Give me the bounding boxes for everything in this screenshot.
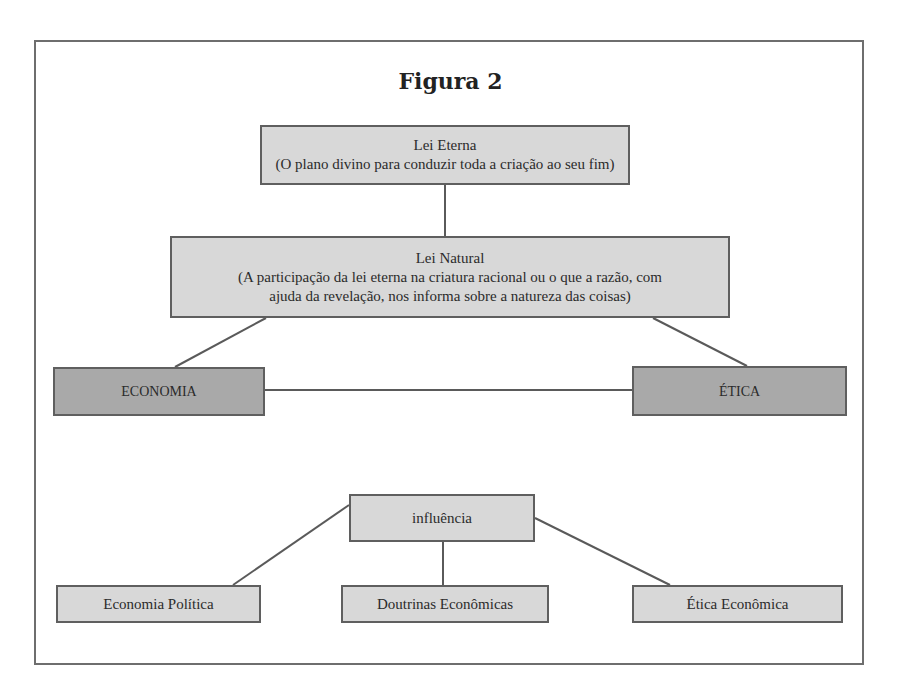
node-lei-natural: Lei Natural (A participação da lei etern… <box>170 236 730 318</box>
node-influencia: influência <box>349 494 535 542</box>
node-lei-natural-description-2: ajuda da revelação, nos informa sobre a … <box>269 287 631 306</box>
node-economia-politica: Economia Política <box>56 585 261 623</box>
node-etica-economica-label: Ética Econômica <box>686 595 788 614</box>
node-lei-eterna-title: Lei Eterna <box>414 136 477 155</box>
node-doutrinas-economicas-label: Doutrinas Econômicas <box>377 595 513 614</box>
node-doutrinas-economicas: Doutrinas Econômicas <box>341 585 549 623</box>
node-economia-label: ECONOMIA <box>121 382 196 401</box>
node-lei-eterna-description: (O plano divino para conduzir toda a cri… <box>275 155 614 174</box>
node-etica: ÉTICA <box>632 366 847 416</box>
node-economia-politica-label: Economia Política <box>103 595 213 614</box>
node-influencia-label: influência <box>412 509 472 528</box>
edge-natural-etica <box>653 318 747 366</box>
edge-influencia-etica-economica <box>535 518 670 585</box>
node-etica-economica: Ética Econômica <box>632 585 843 623</box>
node-lei-natural-description-1: (A participação da lei eterna na criatur… <box>238 268 662 287</box>
node-lei-natural-title: Lei Natural <box>416 249 485 268</box>
edge-influencia-economia-politica <box>233 505 349 585</box>
node-lei-eterna: Lei Eterna (O plano divino para conduzir… <box>260 125 630 185</box>
edge-natural-economia <box>175 318 266 367</box>
node-economia: ECONOMIA <box>53 367 265 416</box>
node-etica-label: ÉTICA <box>719 382 760 401</box>
